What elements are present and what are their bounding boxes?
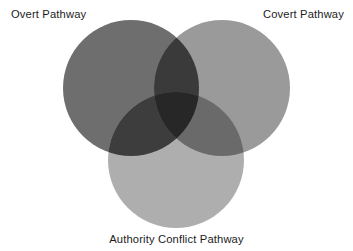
venn-diagram-graphic bbox=[0, 0, 353, 251]
label-covert-pathway: Covert Pathway bbox=[263, 8, 344, 21]
label-overt-pathway: Overt Pathway bbox=[11, 8, 86, 21]
label-authority-conflict-pathway: Authority Conflict Pathway bbox=[0, 233, 353, 246]
venn-figure: Overt Pathway Covert Pathway Authority C… bbox=[0, 0, 353, 251]
